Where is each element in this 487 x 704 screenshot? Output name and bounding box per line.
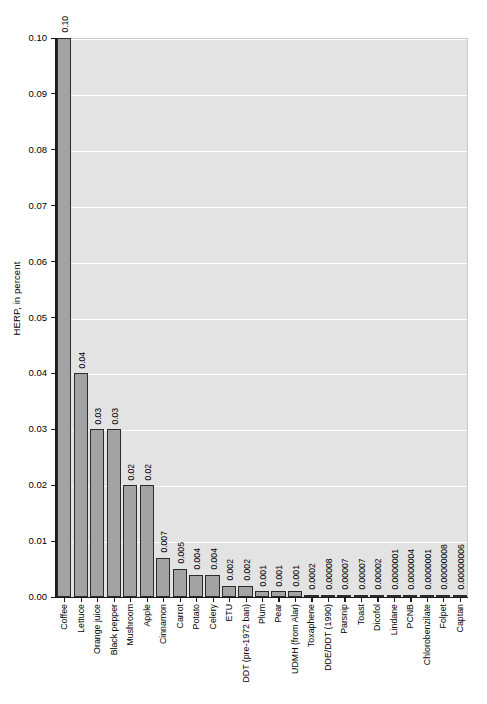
x-tick-mark (180, 597, 181, 602)
x-tick-mark (443, 597, 444, 602)
x-tick-mark (97, 597, 98, 602)
y-tick-label: 0.07 (29, 200, 48, 211)
x-tick-mark (147, 597, 148, 602)
x-axis-label: PCNB (406, 604, 415, 628)
bar-value-label: 0.00000008 (440, 545, 449, 590)
bar[interactable]: 0.04 (74, 373, 88, 597)
x-tick-mark (196, 597, 197, 602)
x-tick-mark (114, 597, 115, 602)
x-tick-mark (64, 597, 65, 602)
bars-layer: 0.100.040.030.030.020.020.0070.0050.0040… (56, 38, 468, 597)
bar-value-label: 0.0000004 (407, 549, 416, 590)
x-axis-label: Potato (192, 604, 201, 629)
bar-value-label: 0.00000006 (457, 545, 466, 590)
bar-value-label: 0.00007 (341, 559, 350, 590)
x-axis-label: Apple (142, 604, 151, 627)
x-axis-label: Toast (356, 604, 365, 625)
x-axis-label: Mushroom (126, 604, 135, 646)
bar-value-label: 0.03 (111, 408, 120, 425)
x-axis-label: Toxaphene (307, 604, 316, 647)
x-tick-mark (213, 597, 214, 602)
bar-value-label: 0.007 (160, 531, 169, 553)
bar[interactable]: 0.02 (140, 485, 154, 597)
x-axis-label: Carrot (175, 604, 184, 628)
x-axis-label: Folpet (439, 604, 448, 628)
bar-value-label: 0.005 (176, 543, 185, 565)
x-tick-mark (130, 597, 131, 602)
y-tick-label: 0.10 (29, 32, 48, 43)
x-tick-mark (163, 597, 164, 602)
bar-value-label: 0.0002 (308, 564, 317, 590)
bar[interactable]: 0.004 (205, 575, 219, 597)
x-tick-mark (361, 597, 362, 602)
bar-value-label: 0.001 (259, 565, 268, 587)
x-axis-labels: CoffeeLettuceOrange juiceBlack pepperMus… (56, 604, 468, 704)
bar-value-label: 0.001 (275, 565, 284, 587)
y-tick-label: 0.04 (29, 367, 48, 378)
x-axis-label: Dicofol (373, 604, 382, 631)
y-tick-label: 0.08 (29, 144, 48, 155)
bar[interactable]: 0.004 (189, 575, 203, 597)
y-tick-label: 0.09 (29, 88, 48, 99)
bar[interactable]: 0.10 (57, 38, 71, 597)
bar[interactable]: 0.005 (173, 569, 187, 597)
x-tick-mark (394, 597, 395, 602)
y-axis-ticks: 0.000.010.020.030.040.050.060.070.080.09… (0, 0, 56, 704)
bar-value-label: 0.002 (226, 559, 235, 581)
y-tick-label: 0.02 (29, 479, 48, 490)
x-axis-label: Pear (274, 604, 283, 623)
x-tick-mark (262, 597, 263, 602)
y-tick-label: 0.01 (29, 535, 48, 546)
x-tick-mark (311, 597, 312, 602)
x-axis-label: Coffee (60, 604, 69, 630)
bar-value-label: 0.0000001 (391, 549, 400, 590)
x-tick-mark (246, 597, 247, 602)
bar[interactable]: 0.007 (156, 558, 170, 597)
y-tick-label: 0.03 (29, 423, 48, 434)
x-axis-label: Chlorobenzilate (422, 604, 431, 665)
x-tick-mark (295, 597, 296, 602)
bar-value-label: 0.10 (61, 16, 70, 33)
x-tick-mark (410, 597, 411, 602)
bar-value-label: 0.004 (193, 548, 202, 570)
bar-value-label: 0.02 (144, 463, 153, 480)
bar-value-label: 0.00008 (325, 559, 334, 590)
bar-value-label: 0.0000001 (424, 549, 433, 590)
y-tick-label: 0.05 (29, 312, 48, 323)
x-axis-label: ETU (225, 604, 234, 622)
bar-value-label: 0.00007 (358, 559, 367, 590)
bar-value-label: 0.03 (94, 408, 103, 425)
bar[interactable]: 0.002 (222, 586, 236, 597)
x-tick-mark (377, 597, 378, 602)
x-tick-mark (344, 597, 345, 602)
x-tick-mark (328, 597, 329, 602)
x-tick-mark (81, 597, 82, 602)
x-axis-label: Captan (455, 604, 464, 632)
y-tick-label: 0.06 (29, 256, 48, 267)
bar-value-label: 0.00002 (374, 559, 383, 590)
bar[interactable]: 0.02 (123, 485, 137, 597)
bar-value-label: 0.04 (78, 352, 87, 369)
bar-value-label: 0.002 (242, 559, 251, 581)
x-axis-label: Cinnamon (159, 604, 168, 644)
bar-value-label: 0.001 (292, 565, 301, 587)
x-axis-label: Orange juice (93, 604, 102, 654)
x-tick-mark (229, 597, 230, 602)
y-tick-label: 0.00 (29, 591, 48, 602)
bar[interactable]: 0.03 (90, 429, 104, 597)
x-axis-label: DDT (pre-1972 ban) (241, 604, 250, 683)
x-axis-label: UDMH (from Alar) (291, 604, 300, 674)
x-tick-mark (460, 597, 461, 602)
x-axis-label: Lindane (389, 604, 398, 635)
x-axis-label: Lettuce (76, 604, 85, 633)
x-axis-label: DDE/DDT (1990) (324, 604, 333, 671)
bar-value-label: 0.02 (127, 463, 136, 480)
x-axis-label: Black pepper (109, 604, 118, 655)
bar[interactable]: 0.002 (238, 586, 252, 597)
bar[interactable]: 0.03 (107, 429, 121, 597)
x-tick-mark (427, 597, 428, 602)
bar-value-label: 0.004 (209, 548, 218, 570)
x-tick-mark (278, 597, 279, 602)
x-axis-label: Celery (208, 604, 217, 629)
herp-bar-chart: HERP, in percent 0.000.010.020.030.040.0… (0, 0, 487, 704)
